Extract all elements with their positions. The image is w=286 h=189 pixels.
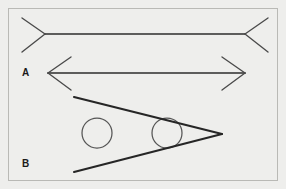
- illusion-figure-svg: [0, 0, 286, 189]
- panel-label-b: B: [22, 159, 29, 169]
- illusion-figure-canvas: A B: [0, 0, 286, 189]
- paper-background: [0, 0, 286, 189]
- panel-label-a: A: [22, 68, 29, 78]
